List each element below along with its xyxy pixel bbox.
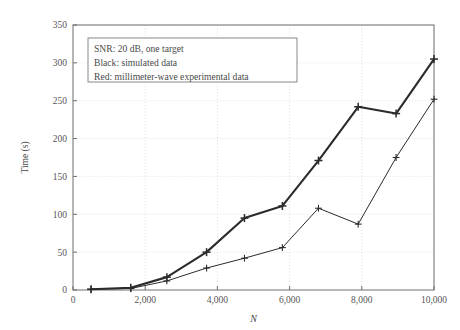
data-point-marker <box>393 154 400 161</box>
legend-line-3: Red: millimeter-wave experimental data <box>94 71 249 82</box>
series-simulated <box>87 55 438 293</box>
data-point-marker <box>203 265 210 272</box>
y-tick-label: 100 <box>53 210 68 220</box>
x-tick-label: 0 <box>71 295 76 305</box>
data-point-marker <box>241 255 248 262</box>
y-tick-label: 350 <box>53 20 68 30</box>
svg-text:Time (s): Time (s) <box>20 141 31 173</box>
y-tick-label: 50 <box>58 248 68 258</box>
x-tick-label: 2,000 <box>135 295 157 305</box>
y-tick-label: 200 <box>53 134 68 144</box>
legend-line-2: Black: simulated data <box>94 57 178 68</box>
y-tick-label: 250 <box>53 96 68 106</box>
x-tick-label: 6,000 <box>279 295 301 305</box>
data-point-marker <box>88 286 95 293</box>
y-axis-title: Time (s) <box>20 141 31 173</box>
x-axis-title: N <box>249 313 258 324</box>
data-series-layer <box>87 55 438 293</box>
y-tick-label: 150 <box>53 172 68 182</box>
x-tick-label: 10,000 <box>421 295 447 305</box>
data-point-marker <box>355 221 362 228</box>
legend-line-1: SNR: 20 dB, one target <box>94 43 184 54</box>
figure-container: 050100150200250300350 02,0004,0006,0008,… <box>0 0 460 330</box>
y-tick-label: 0 <box>62 285 67 295</box>
series-experimental <box>88 96 438 293</box>
data-point-marker <box>431 96 438 103</box>
y-tick-label: 300 <box>53 58 68 68</box>
line-chart: 050100150200250300350 02,0004,0006,0008,… <box>0 0 460 330</box>
x-tick-label: 4,000 <box>207 295 229 305</box>
x-tick-label: 8,000 <box>351 295 373 305</box>
legend-box: SNR: 20 dB, one targetBlack: simulated d… <box>88 38 297 82</box>
